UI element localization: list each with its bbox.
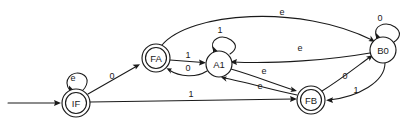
state-machine-diagram: e 0 1 1 0 e: [0, 0, 411, 130]
state-label-if: IF: [72, 98, 81, 109]
edge-label-if-if: e: [70, 73, 75, 83]
edge-label-b0-fb: 1: [353, 85, 358, 95]
edge-label-if-fa: 0: [109, 71, 114, 81]
edge-a1-a1: 1: [213, 25, 236, 54]
state-node-fa[interactable]: FA: [142, 44, 170, 72]
state-label-fb: FB: [305, 95, 317, 106]
edge-label-b0-b0: 0: [377, 13, 382, 23]
edge-label-a1-a1: 1: [217, 25, 222, 35]
state-node-b0[interactable]: B0: [370, 37, 396, 63]
edge-label-a1-fb: e: [261, 66, 266, 76]
edge-fb-a1: e: [221, 77, 297, 96]
state-node-fb[interactable]: FB: [297, 86, 325, 114]
fsm-canvas: e 0 1 1 0 e: [0, 0, 411, 130]
edge-a1-fb: e: [231, 66, 297, 92]
edge-label-fb-a1: e: [257, 81, 262, 91]
state-node-if[interactable]: IF: [62, 89, 90, 117]
edge-b0-a1: e: [230, 43, 370, 65]
edge-fb-b0: 0: [322, 55, 373, 91]
edge-a1-fa: 0: [167, 63, 208, 76]
edge-label-fa-a1: 1: [185, 50, 190, 60]
state-label-b0: B0: [377, 45, 389, 56]
edge-label-fb-b0: 0: [342, 71, 347, 81]
state-node-a1[interactable]: A1: [206, 51, 232, 77]
start-arrow: [8, 100, 61, 106]
state-label-fa: FA: [150, 53, 162, 64]
edge-label-if-fb: 1: [188, 89, 193, 99]
edge-label-b0-a1: e: [297, 43, 302, 53]
edge-label-fa-b0: e: [279, 7, 284, 17]
edge-if-fa: 0: [88, 64, 140, 94]
edge-label-a1-fa: 0: [185, 63, 190, 73]
edge-if-fb: 1: [90, 89, 297, 102]
state-label-a1: A1: [213, 59, 225, 70]
edge-fa-b0: e: [162, 7, 375, 45]
